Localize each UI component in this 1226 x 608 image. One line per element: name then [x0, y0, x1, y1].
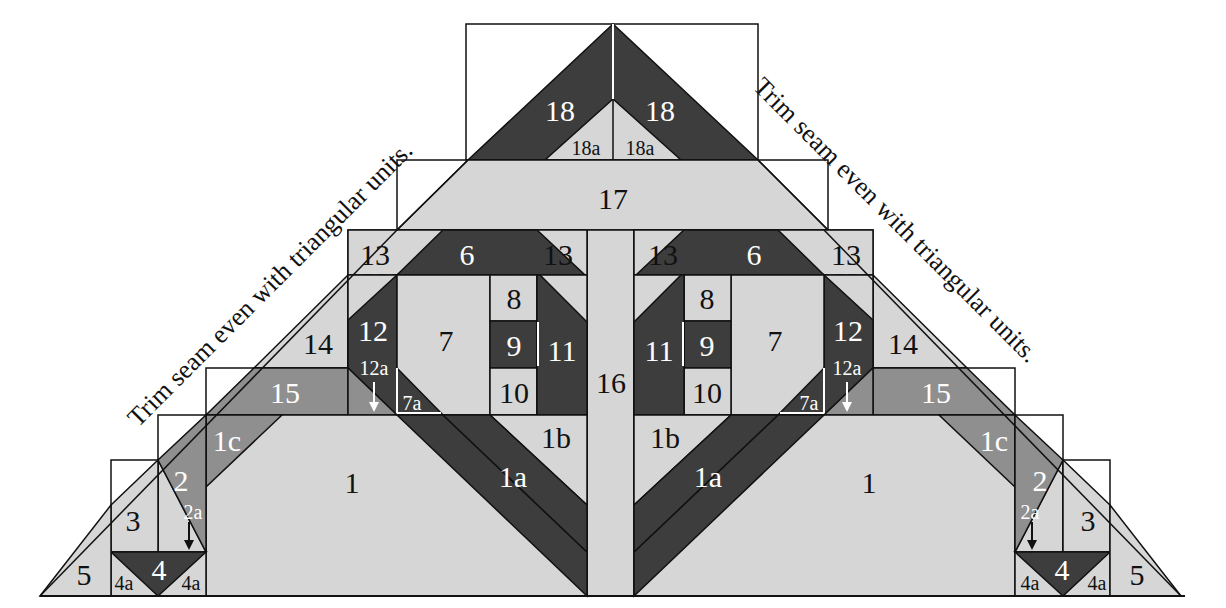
label-12-right: 12 [833, 314, 863, 347]
label-12a-left: 12a [360, 357, 389, 379]
label-13-right-a: 13 [648, 238, 678, 271]
label-18-left: 18 [545, 94, 575, 127]
label-14-right: 14 [888, 327, 918, 360]
label-1a-left: 1a [499, 460, 527, 493]
label-18-right: 18 [645, 94, 675, 127]
label-5-left: 5 [77, 558, 92, 591]
label-6-left: 6 [460, 238, 475, 271]
label-17: 17 [598, 182, 628, 215]
label-1c-left: 1c [213, 424, 241, 457]
label-2a-left: 2a [184, 501, 203, 523]
label-2a-right: 2a [1021, 501, 1040, 523]
label-9-right: 9 [700, 329, 715, 362]
label-4a-right-b: 4a [1088, 572, 1107, 594]
label-1c-right: 1c [980, 424, 1008, 457]
label-3-right: 3 [1081, 504, 1096, 537]
label-8-left: 8 [507, 282, 522, 315]
unit-18: 18 18 18a 18a [466, 24, 758, 160]
label-4a-left-a: 4a [115, 572, 134, 594]
unit-16: 16 [587, 230, 634, 596]
piece-5-left [40, 505, 111, 596]
label-3-left: 3 [126, 504, 141, 537]
label-7-left: 7 [439, 324, 454, 357]
label-18a-left: 18a [572, 137, 601, 159]
label-7-right: 7 [768, 324, 783, 357]
label-6-right: 6 [747, 238, 762, 271]
label-7a-left: 7a [403, 392, 422, 414]
label-16: 16 [596, 366, 626, 399]
right-half [634, 230, 1181, 596]
label-13-left-b: 13 [543, 238, 573, 271]
label-4-right: 4 [1055, 553, 1070, 586]
label-2-left: 2 [174, 464, 189, 497]
label-18a-right: 18a [626, 137, 655, 159]
label-4-left: 4 [152, 553, 167, 586]
label-7a-right: 7a [800, 392, 819, 414]
label-1b-right: 1b [650, 421, 680, 454]
label-5-right: 5 [1130, 558, 1145, 591]
label-14-left: 14 [303, 327, 333, 360]
quilt-pattern-diagram: 18 18 18a 18a 17 16 13 6 13 12 12a 7 [0, 0, 1226, 608]
label-4a-left-b: 4a [182, 572, 201, 594]
label-10-left: 10 [499, 376, 529, 409]
label-1b-left: 1b [541, 421, 571, 454]
label-8-right: 8 [700, 282, 715, 315]
label-11-left: 11 [548, 334, 577, 367]
label-1-left: 1 [345, 466, 360, 499]
label-12-left: 12 [358, 314, 388, 347]
unit-17: 17 [397, 160, 828, 230]
label-1-right: 1 [862, 466, 877, 499]
label-13-right-b: 13 [831, 238, 861, 271]
label-9-left: 9 [507, 329, 522, 362]
label-2-right: 2 [1033, 464, 1048, 497]
label-15-left: 15 [270, 376, 300, 409]
label-1a-right: 1a [694, 460, 722, 493]
label-11-right: 11 [645, 334, 674, 367]
label-10-right: 10 [692, 376, 722, 409]
label-15-right: 15 [921, 376, 951, 409]
piece-16 [587, 230, 634, 596]
label-12a-right: 12a [833, 357, 862, 379]
label-4a-right-a: 4a [1021, 572, 1040, 594]
